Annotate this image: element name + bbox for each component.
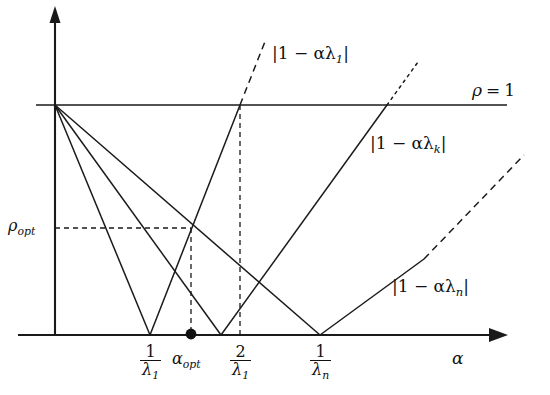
x-axis-label: α bbox=[452, 350, 463, 367]
one-value: 1 bbox=[504, 80, 515, 100]
denominator-subscript: 1 bbox=[152, 369, 159, 382]
rho-symbol: ρ bbox=[472, 80, 482, 100]
rho-opt-label: ρopt bbox=[8, 218, 35, 238]
curve-lambda-k-dotted-extension bbox=[387, 62, 418, 105]
alpha-opt-subscript: opt bbox=[183, 358, 201, 371]
denominator-lambda: λ bbox=[142, 360, 152, 379]
label-prefix: |1 − αλ bbox=[272, 43, 336, 63]
label-suffix: | bbox=[463, 276, 469, 296]
rho-opt-subscript: opt bbox=[17, 225, 35, 238]
denominator-subscript: 1 bbox=[242, 369, 249, 382]
numerator-1: 1 bbox=[310, 343, 331, 360]
rho-opt-base: ρ bbox=[8, 216, 17, 235]
alpha-opt-marker-dot bbox=[186, 329, 197, 340]
label-prefix: |1 − αλ bbox=[392, 276, 456, 296]
x-tick-alpha-opt: αopt bbox=[172, 351, 201, 371]
curve-lambda-1-descending bbox=[55, 105, 150, 335]
label-prefix: |1 − αλ bbox=[370, 133, 434, 153]
y-axis-arrowhead bbox=[50, 6, 61, 23]
denominator-subscript: n bbox=[322, 369, 329, 382]
label-subscript: k bbox=[434, 142, 441, 156]
label-suffix: | bbox=[441, 133, 447, 153]
curve-label-lambda-k: |1 − αλk| bbox=[370, 135, 447, 156]
curve-lambda-k-ascending bbox=[221, 105, 387, 335]
curve-lambda-1-ascending bbox=[150, 105, 240, 335]
curve-lambda-n-dashed-extension bbox=[424, 155, 524, 259]
x-axis-arrowhead bbox=[489, 328, 508, 342]
x-tick-one-over-lambda-1: 1 λ1 bbox=[140, 343, 161, 382]
label-suffix: | bbox=[343, 43, 349, 63]
x-tick-two-over-lambda-1: 2 λ1 bbox=[230, 343, 251, 382]
denominator-lambda: λ bbox=[232, 360, 242, 379]
rho-equals-one-label: ρ=1 bbox=[472, 82, 515, 99]
curve-label-lambda-n: |1 − αλn| bbox=[392, 278, 469, 299]
figure-canvas: ρ=1 ρopt 1 λ1 αopt 2 λ1 1 λn α |1 − αλ1|… bbox=[0, 0, 550, 395]
curve-label-lambda-1: |1 − αλ1| bbox=[272, 45, 349, 66]
x-tick-one-over-lambda-n: 1 λn bbox=[310, 343, 331, 382]
equals-symbol: = bbox=[486, 80, 500, 100]
curve-lambda-1-dashed-extension bbox=[240, 39, 266, 105]
numerator-2: 2 bbox=[230, 343, 251, 360]
curve-lambda-n-descending bbox=[55, 105, 320, 335]
curve-lambda-k-descending bbox=[55, 105, 221, 335]
numerator-1: 1 bbox=[140, 343, 161, 360]
alpha-opt-base: α bbox=[172, 349, 183, 368]
denominator-lambda: λ bbox=[312, 360, 322, 379]
